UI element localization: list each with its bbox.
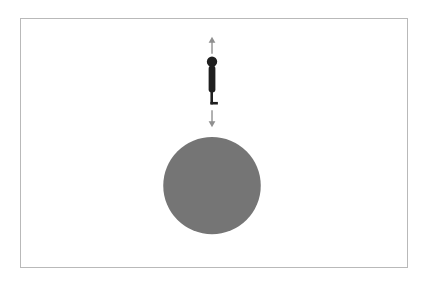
illustration-frame: Person jumping above a sphere Line-art i… <box>20 18 408 268</box>
gray-sphere <box>163 137 260 234</box>
stick-person-figure <box>207 56 218 104</box>
illustration-canvas <box>21 19 407 267</box>
illustration-scene: Person jumping above a sphere Line-art i… <box>0 0 428 287</box>
arrow-up-icon <box>209 37 216 54</box>
arrow-down-icon <box>209 110 216 127</box>
